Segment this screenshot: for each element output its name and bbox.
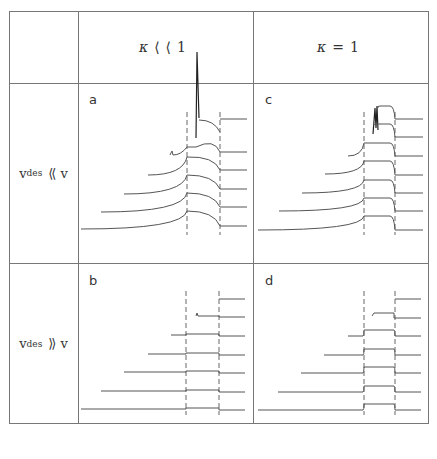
panel-d-curves — [0, 0, 437, 459]
